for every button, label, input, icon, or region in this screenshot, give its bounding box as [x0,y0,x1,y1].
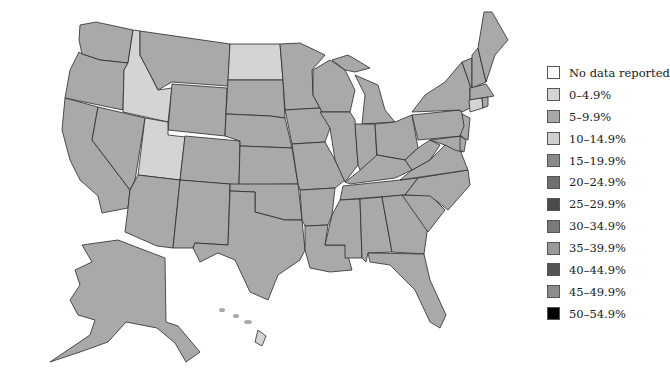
legend-swatch [547,88,560,101]
states-group [50,12,508,362]
state-alaska [50,240,200,362]
legend-item: 0–4.9% [547,84,670,106]
legend-label: 15–19.9% [569,154,626,168]
legend-item-no-data: No data reported [547,62,670,84]
state-wyoming [168,84,227,136]
legend-item: 15–19.9% [547,150,670,172]
legend-swatch [547,176,560,189]
state-rhode-island [482,97,488,108]
legend-item: 10–14.9% [547,128,670,150]
legend-swatch [547,307,560,320]
state-kansas [239,146,298,185]
legend-label: 10–14.9% [569,132,626,146]
legend-swatch [547,263,560,276]
legend-item: 30–34.9% [547,215,670,237]
state-arkansas [300,188,335,226]
legend-label: No data reported [569,66,670,80]
state-arizona [125,175,180,248]
legend-item: 45–49.9% [547,281,670,303]
state-new-york [412,62,470,112]
state-montana [140,31,230,90]
legend-swatch [547,242,560,255]
legend-swatch [547,110,560,123]
legend-item: 50–54.9% [547,303,670,325]
legend-item: 5–9.9% [547,106,670,128]
legend-swatch [547,66,560,79]
legend-item: 20–24.9% [547,171,670,193]
legend-item: 35–39.9% [547,237,670,259]
legend-label: 40–44.9% [569,263,626,277]
state-florida [368,253,446,328]
state-pennsylvania [412,110,468,140]
legend-swatch [547,154,560,167]
legend-label: 0–4.9% [569,88,611,102]
legend-label: 5–9.9% [569,110,611,124]
legend-swatch [547,198,560,211]
state-north-dakota [228,44,283,80]
legend-label: 45–49.9% [569,285,626,299]
legend-label: 35–39.9% [569,241,626,255]
state-hawaii [219,308,266,346]
legend-label: 30–34.9% [569,219,626,233]
state-new-mexico [173,180,230,248]
state-connecticut [469,98,483,112]
legend-label: 50–54.9% [569,307,626,321]
legend-swatch [547,220,560,233]
legend-item: 25–29.9% [547,193,670,215]
state-michigan [355,75,395,124]
legend-label: 20–24.9% [569,175,626,189]
legend-swatch [547,132,560,145]
legend-item: 40–44.9% [547,259,670,281]
legend-label: 25–29.9% [569,197,626,211]
state-colorado [180,136,240,185]
legend-swatch [547,285,560,298]
state-south-dakota [226,80,285,118]
map-legend: No data reported 0–4.9% 5–9.9% 10–14.9% … [547,62,670,325]
